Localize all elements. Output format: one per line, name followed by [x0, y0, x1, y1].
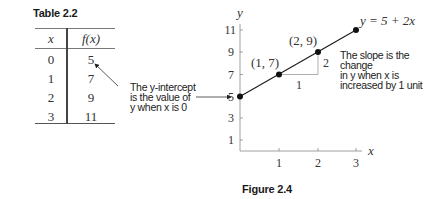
equation-label: y = 5 + 2x — [360, 13, 415, 29]
point-2-9 — [315, 49, 321, 55]
y-ticks — [240, 30, 243, 140]
y-tick-label: 1 — [228, 133, 234, 147]
figure-caption: Figure 2.4 — [242, 183, 292, 195]
x-ticks — [279, 148, 356, 151]
x-tick-label: 2 — [315, 156, 321, 170]
point-0-5 — [237, 94, 243, 100]
intercept-arrow-to-table — [95, 64, 118, 86]
y-tick-label: 9 — [228, 45, 234, 59]
y-tick-label: 3 — [228, 111, 234, 125]
point-label-1-7: (1, 7) — [251, 55, 279, 71]
run-label: 1 — [296, 78, 302, 93]
rise-label: 2 — [323, 56, 329, 71]
x-axis-label: x — [367, 143, 374, 158]
x-tick-label: 3 — [353, 156, 359, 170]
figure-graph: 1 3 5 7 9 11 1 2 3 y x — [0, 0, 442, 199]
point-3-11 — [353, 27, 359, 33]
y-axis-label: y — [235, 5, 243, 20]
y-tick-label: 11 — [224, 23, 236, 37]
point-1-7 — [276, 72, 282, 78]
y-tick-label: 5 — [228, 90, 234, 104]
x-tick-label: 1 — [276, 156, 282, 170]
y-tick-label: 7 — [228, 68, 234, 82]
point-label-2-9: (2, 9) — [289, 33, 317, 49]
